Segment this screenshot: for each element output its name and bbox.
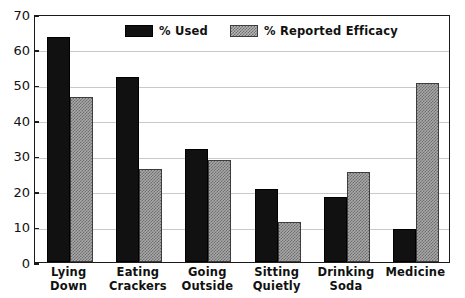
y-tick-label: 10: [4, 221, 30, 234]
gridline: [35, 193, 449, 194]
bar-efficacy: [208, 160, 231, 262]
plot-area: [34, 15, 450, 263]
bar-efficacy: [139, 169, 162, 262]
bar-efficacy: [347, 172, 370, 262]
y-tick-mark: [34, 121, 39, 123]
bar-used: [324, 197, 347, 263]
y-tick-mark: [34, 50, 39, 52]
x-tick-label-line: Going: [173, 266, 242, 280]
x-tick-label: DrinkingSoda: [311, 266, 380, 293]
bar-used: [47, 37, 70, 262]
gridline: [35, 122, 449, 123]
x-tick-label-line: Medicine: [381, 266, 450, 280]
x-tick-label-line: Quietly: [242, 280, 311, 294]
x-tick-label-line: Eating: [103, 266, 172, 280]
legend-entry-efficacy: % Reported Efficacy: [230, 24, 398, 38]
y-tick-mark: [34, 192, 39, 194]
y-tick-label: 0: [4, 257, 30, 270]
x-tick-label: GoingOutside: [173, 266, 242, 293]
x-tick-label: EatingCrackers: [103, 266, 172, 293]
bar-chart: 010203040506070 % Used % Reported Effica…: [0, 0, 465, 298]
x-tick-label: Medicine: [381, 266, 450, 280]
bar-efficacy: [278, 222, 301, 262]
gridline: [35, 51, 449, 52]
y-tick-label: 30: [4, 150, 30, 163]
gridline: [35, 158, 449, 159]
y-tick-label: 40: [4, 115, 30, 128]
bar-efficacy: [416, 83, 439, 262]
y-tick-mark: [34, 15, 39, 17]
y-tick-label: 60: [4, 44, 30, 57]
bar-used: [116, 77, 139, 262]
bar-used: [255, 189, 278, 262]
bar-used: [393, 229, 416, 262]
legend-swatch-used-icon: [125, 25, 153, 37]
y-tick-label: 20: [4, 186, 30, 199]
x-axis: LyingDownEatingCrackersGoingOutsideSitti…: [34, 266, 450, 298]
x-tick-label-line: Soda: [311, 280, 380, 294]
y-tick-label: 50: [4, 79, 30, 92]
x-tick-label-line: Outside: [173, 280, 242, 294]
y-axis: 010203040506070: [0, 15, 30, 263]
legend-label-used: % Used: [159, 24, 208, 38]
y-tick-label: 70: [4, 9, 30, 22]
bar-efficacy: [70, 97, 93, 262]
legend-entry-used: % Used: [125, 24, 208, 38]
gridline: [35, 87, 449, 88]
x-tick-label: LyingDown: [34, 266, 103, 293]
chart-legend: % Used % Reported Efficacy: [125, 23, 398, 39]
legend-label-efficacy: % Reported Efficacy: [264, 24, 398, 38]
y-tick-mark: [34, 263, 39, 265]
x-tick-label-line: Drinking: [311, 266, 380, 280]
y-tick-mark: [34, 228, 39, 230]
y-tick-mark: [34, 86, 39, 88]
bar-used: [185, 149, 208, 262]
legend-swatch-efficacy-icon: [230, 25, 258, 37]
gridline: [35, 229, 449, 230]
x-tick-label-line: Sitting: [242, 266, 311, 280]
x-tick-label-line: Down: [34, 280, 103, 294]
x-tick-label-line: Lying: [34, 266, 103, 280]
x-tick-label: SittingQuietly: [242, 266, 311, 293]
x-tick-label-line: Crackers: [103, 280, 172, 294]
y-tick-mark: [34, 157, 39, 159]
